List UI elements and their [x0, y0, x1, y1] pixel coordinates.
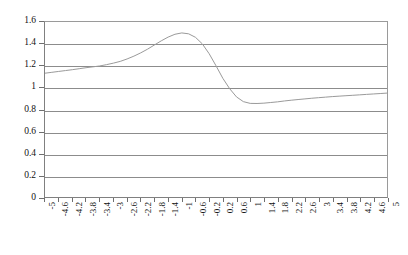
x-tick-label--5: -5	[48, 202, 57, 210]
x-tick-label--0.2: -0.2	[213, 202, 222, 216]
x-tick-mark-0.6	[237, 198, 238, 202]
y-tick-label-0.2: 0.2	[24, 171, 36, 181]
x-tick-label--1: -1	[185, 202, 194, 210]
x-tick-label-1.8: 1.8	[281, 202, 290, 213]
plot-area	[44, 21, 388, 198]
x-tick-mark-3	[319, 198, 320, 202]
series-line-series-1	[45, 22, 387, 197]
x-tick-label--1.4: -1.4	[171, 202, 180, 216]
x-tick-mark--2.2	[140, 198, 141, 202]
x-tick-label-3.8: 3.8	[350, 202, 359, 213]
line-chart: 00.20.40.60.811.21.41.6 -5-4.6-4.2-3.8-3…	[0, 0, 408, 255]
x-tick-label-4.2: 4.2	[364, 202, 373, 213]
x-tick-mark--3.4	[99, 198, 100, 202]
x-tick-label--2.6: -2.6	[130, 202, 139, 216]
y-tick-label-1.6: 1.6	[24, 16, 36, 26]
x-tick-label-3.4: 3.4	[336, 202, 345, 213]
y-tick-label-1.4: 1.4	[24, 38, 36, 48]
x-axis: -5-4.6-4.2-3.8-3.4-3-2.6-2.2-1.8-1.4-1-0…	[0, 200, 408, 255]
x-tick-label--3.8: -3.8	[89, 202, 98, 216]
x-tick-label-2.6: 2.6	[309, 202, 318, 213]
x-tick-mark-3.4	[333, 198, 334, 202]
y-tick-label-1: 1	[31, 83, 36, 93]
x-tick-mark-5	[388, 198, 389, 202]
x-tick-mark-4.6	[374, 198, 375, 202]
x-tick-mark-3.8	[347, 198, 348, 202]
x-tick-mark-1.4	[264, 198, 265, 202]
x-tick-mark--3.8	[85, 198, 86, 202]
x-tick-label--1.8: -1.8	[158, 202, 167, 216]
x-tick-mark--2.6	[127, 198, 128, 202]
x-tick-mark-1	[250, 198, 251, 202]
x-tick-label--3: -3	[116, 202, 125, 210]
x-tick-label-3: 3	[323, 202, 332, 207]
x-tick-mark-0.2	[223, 198, 224, 202]
x-tick-label-0.6: 0.6	[240, 202, 249, 213]
y-tick-label-0.4: 0.4	[24, 149, 36, 159]
x-tick-mark--0.6	[195, 198, 196, 202]
x-tick-mark--3	[113, 198, 114, 202]
x-tick-mark-2.2	[292, 198, 293, 202]
y-tick-mark-1.4	[39, 43, 44, 44]
x-tick-label--3.4: -3.4	[103, 202, 112, 216]
y-tick-mark-0.2	[39, 176, 44, 177]
x-tick-label-4.6: 4.6	[378, 202, 387, 213]
x-tick-mark-4.2	[360, 198, 361, 202]
curve-polyline	[45, 33, 387, 104]
x-tick-label-0.2: 0.2	[226, 202, 235, 213]
x-tick-mark--4.6	[58, 198, 59, 202]
x-tick-mark--0.2	[209, 198, 210, 202]
y-tick-label-1.2: 1.2	[24, 61, 36, 71]
y-tick-mark-0.4	[39, 154, 44, 155]
y-tick-label-0.8: 0.8	[24, 105, 36, 115]
x-tick-mark--4.2	[72, 198, 73, 202]
y-tick-mark-0.6	[39, 132, 44, 133]
y-tick-mark-1	[39, 87, 44, 88]
y-tick-label-0.6: 0.6	[24, 127, 36, 137]
x-tick-mark--1	[182, 198, 183, 202]
x-tick-mark-2.6	[305, 198, 306, 202]
x-tick-mark-1.8	[278, 198, 279, 202]
x-tick-mark--1.8	[154, 198, 155, 202]
y-tick-mark-1.6	[39, 21, 44, 22]
x-tick-mark--1.4	[168, 198, 169, 202]
x-tick-label--4.6: -4.6	[61, 202, 70, 216]
x-tick-label--2.2: -2.2	[144, 202, 153, 216]
x-tick-label-2.2: 2.2	[295, 202, 304, 213]
x-tick-label-1.4: 1.4	[268, 202, 277, 213]
x-tick-label-1: 1	[254, 202, 263, 207]
x-tick-mark--5	[44, 198, 45, 202]
y-tick-mark-1.2	[39, 65, 44, 66]
y-tick-mark-0.8	[39, 110, 44, 111]
x-tick-label--0.6: -0.6	[199, 202, 208, 216]
x-tick-label--4.2: -4.2	[75, 202, 84, 216]
x-tick-label-5: 5	[392, 202, 401, 207]
